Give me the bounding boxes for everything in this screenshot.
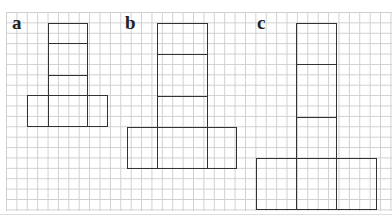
figure-c-base-center: [296, 158, 337, 210]
figure-b-base-center: [157, 127, 208, 169]
figure-a-base-center: [48, 95, 88, 127]
figure-a-label: a: [12, 12, 22, 34]
figure-a-tower-top: [48, 23, 88, 44]
figure-c-base-left: [256, 158, 297, 210]
figure-a-base-left: [27, 95, 49, 127]
figure-c-tower-top: [296, 23, 337, 65]
figure-b-base-left: [127, 127, 158, 169]
figure-a-tower-bottom: [48, 75, 88, 96]
figure-b-label: b: [125, 12, 136, 34]
figure-b-tower-bottom: [157, 96, 208, 128]
figure-b-tower-top: [157, 23, 208, 55]
figure-a-tower-middle: [48, 43, 88, 76]
figure-c-tower-middle: [296, 64, 337, 118]
figure-b-base-right: [207, 127, 237, 169]
figure-c-base-right: [336, 158, 377, 210]
figure-a-base-right: [87, 95, 108, 127]
figure-b-tower-middle: [157, 54, 208, 97]
figure-c-label: c: [257, 12, 265, 34]
bottom-divider: [0, 214, 392, 215]
figure-c-tower-bottom: [296, 117, 337, 159]
